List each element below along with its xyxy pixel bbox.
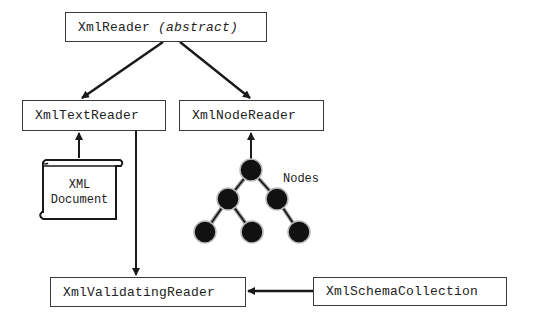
xml-text-reader-name: XmlTextReader — [35, 108, 139, 123]
xml-validating-reader-name: XmlValidatingReader — [63, 285, 215, 300]
connector-layer — [0, 0, 540, 323]
xml-reader-qualifier: (abstract) — [158, 20, 238, 35]
edge-reader-to-textreader — [82, 42, 163, 98]
xml-document-label: XML Document — [43, 178, 116, 208]
xml-schema-collection-box: XmlSchemaCollection — [313, 277, 507, 306]
xml-document-line1: XML — [43, 178, 116, 193]
xml-validating-reader-box: XmlValidatingReader — [50, 277, 246, 307]
nodes-label: Nodes — [283, 172, 319, 186]
xml-schema-collection-name: XmlSchemaCollection — [326, 284, 478, 299]
edge-reader-to-nodereader — [180, 42, 250, 98]
xml-reader-name: XmlReader — [78, 20, 150, 35]
xml-reader-box: XmlReader (abstract) — [65, 12, 267, 42]
xml-text-reader-box: XmlTextReader — [22, 100, 166, 131]
xml-node-reader-box: XmlNodeReader — [179, 100, 324, 131]
xml-node-reader-name: XmlNodeReader — [192, 108, 296, 123]
xml-document-line2: Document — [43, 193, 116, 208]
